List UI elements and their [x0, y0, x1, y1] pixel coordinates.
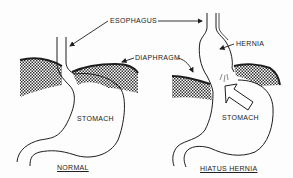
caption-normal: NORMAL	[57, 164, 89, 171]
label-stomach-normal: STOMACH	[77, 115, 114, 122]
label-hernia: HERNIA	[236, 40, 264, 47]
hernia-esophagus-and-sac	[199, 13, 234, 92]
diagram-artwork	[0, 0, 293, 178]
label-stomach-hernia: STOMACH	[222, 114, 259, 121]
normal-diaphragm	[20, 58, 138, 97]
hollow-arrow-icon	[225, 84, 253, 110]
arrow-diaphragm-hernia	[178, 58, 193, 72]
arrow-esophagus-normal	[70, 21, 108, 46]
label-diaphragm: DIAPHRAGM	[135, 54, 180, 61]
caption-hiatus-hernia: HIATUS HERNIA	[200, 165, 257, 172]
arrow-diaphragm-normal	[122, 58, 134, 62]
label-esophagus: ESOPHAGUS	[110, 17, 157, 24]
hiatus-hernia-diagram: ESOPHAGUS DIAPHRAGM HERNIA STOMACH STOMA…	[0, 0, 293, 178]
